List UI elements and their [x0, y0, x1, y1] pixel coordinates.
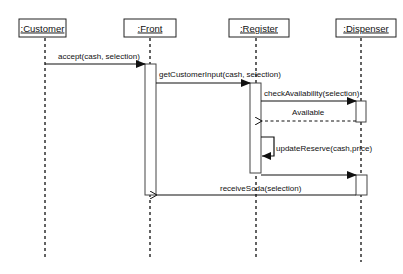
message-label-receive-soda: receiveSoda(selection) [220, 184, 302, 193]
activation-register [250, 83, 261, 173]
message-available-return: Available [262, 108, 356, 121]
object-label-front: :Front [138, 23, 163, 34]
object-label-customer: :Customer [21, 23, 65, 34]
message-label-available: Available [292, 108, 325, 117]
object-front: :Front [124, 19, 176, 37]
message-label-update-reserve: updateReserve(cash,price) [276, 144, 372, 153]
message-get-customer-input: getCustomerInput(cash, selection) [156, 70, 281, 83]
activation-front [145, 64, 156, 195]
message-label-check-availability: checkAvailability(selection) [264, 89, 360, 98]
activation-dispenser-1 [356, 101, 366, 122]
object-label-register: :Register [240, 23, 278, 34]
message-label-get-customer-input: getCustomerInput(cash, selection) [159, 70, 281, 79]
message-receive-soda: receiveSoda(selection) [157, 184, 356, 195]
message-label-accept: accept(cash, selection) [58, 52, 140, 61]
object-register: :Register [229, 19, 289, 37]
message-accept: accept(cash, selection) [45, 52, 145, 64]
object-label-dispenser: :Dispenser [343, 23, 388, 34]
sequence-diagram: :Customer :Front :Register :Dispenser ac… [0, 0, 403, 274]
object-customer: :Customer [19, 19, 66, 37]
activation-dispenser-2 [356, 175, 367, 195]
message-update-reserve-self: updateReserve(cash,price) [261, 137, 372, 160]
message-check-availability: checkAvailability(selection) [261, 89, 360, 102]
object-dispenser: :Dispenser [336, 19, 396, 37]
